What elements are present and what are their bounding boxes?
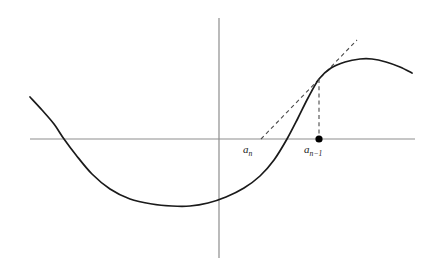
- label-a-n-minus-1: an−1: [304, 144, 323, 158]
- root-estimate-point: [315, 135, 322, 142]
- label-a-n-subscript: n: [249, 149, 253, 158]
- label-a-n-minus-1-subscript: n−1: [310, 149, 323, 158]
- label-a-n: an: [243, 144, 252, 158]
- function-curve: [30, 59, 412, 207]
- newton-method-figure: an an−1: [0, 0, 433, 271]
- tangent-line: [261, 40, 357, 139]
- figure-canvas: [0, 0, 433, 271]
